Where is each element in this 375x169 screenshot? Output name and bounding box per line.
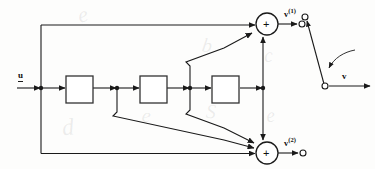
switch-actuation-arrow <box>329 50 355 68</box>
block-3 <box>212 76 239 103</box>
block-2 <box>140 76 167 103</box>
switch-contact-upper <box>302 14 308 20</box>
terminal-v2 <box>300 150 306 156</box>
output-label-v2-sup: (2) <box>288 136 296 143</box>
output-label-v1: v(1) <box>284 8 296 18</box>
input-label-u: u <box>18 71 23 82</box>
summer-top-sign: + <box>263 18 269 30</box>
junction-mid <box>115 86 119 90</box>
block-diagram-figure: e b c e S e d u v(1) v(2) v + + <box>0 0 375 169</box>
junction-input <box>39 86 43 90</box>
switch-output-label-v: v <box>342 72 347 81</box>
block-1 <box>66 76 93 103</box>
switch-pivot <box>322 83 328 89</box>
terminals-group <box>299 14 328 156</box>
summer-bottom-sign: + <box>263 147 269 159</box>
switch-blade <box>307 21 324 84</box>
junction-right <box>188 86 192 90</box>
output-label-v1-sup: (1) <box>288 7 296 14</box>
junction-feed <box>261 86 265 90</box>
blocks-group <box>66 76 239 103</box>
terminal-v1 <box>299 21 305 27</box>
diagram-canvas <box>0 0 375 169</box>
output-label-v2: v(2) <box>284 137 296 147</box>
